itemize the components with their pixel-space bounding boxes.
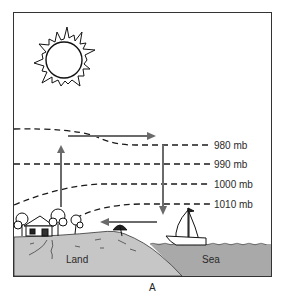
land-label: Land (66, 254, 88, 265)
isobar-label-980: 980 mb (214, 140, 248, 151)
figure-caption: A (149, 282, 156, 293)
isobar-label-990: 990 mb (214, 159, 248, 170)
isobar-label-1000: 1000 mb (214, 179, 253, 190)
isobar-label-1010: 1010 mb (214, 199, 253, 210)
sea-label: Sea (202, 254, 220, 265)
sea-breeze-diagram: 980 mb 990 mb 1000 mb 1010 mb (0, 0, 284, 300)
